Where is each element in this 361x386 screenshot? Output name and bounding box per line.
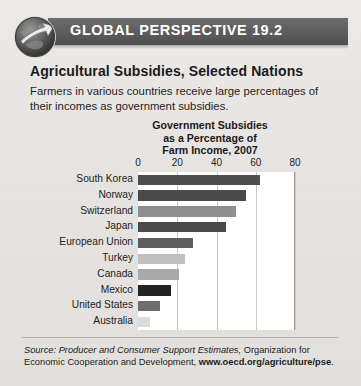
- bar-label-norway: Norway: [0, 189, 133, 200]
- intro-paragraph: Farmers in various countries receive lar…: [30, 84, 338, 113]
- bar-switzerland: [138, 206, 236, 217]
- bar-european-union: [138, 238, 193, 249]
- chart-bars: South KoreaNorwaySwitzerlandJapanEuropea…: [0, 172, 361, 330]
- bar-canada: [138, 269, 179, 280]
- bar-label-south-korea: South Korea: [0, 173, 133, 184]
- banner-title: GLOBAL PERSPECTIVE 19.2: [70, 22, 283, 38]
- bar-label-switzerland: Switzerland: [0, 205, 133, 216]
- chart-title-line-2: Farm Income, 2007: [120, 144, 300, 157]
- chart-row: Mexico: [0, 283, 361, 299]
- bar-label-canada: Canada: [0, 268, 133, 279]
- chart-row: Canada: [0, 267, 361, 283]
- chart-title: Government Subsidiesas a Percentage ofFa…: [120, 119, 300, 157]
- bar-norway: [138, 190, 246, 201]
- divider: [22, 337, 338, 338]
- chart-row: Australia: [0, 314, 361, 330]
- x-axis-tick-labels: 020406080: [0, 157, 361, 171]
- bar-label-european-union: European Union: [0, 236, 133, 247]
- chart-title-line-1: as a Percentage of: [120, 132, 300, 145]
- chart-row: Turkey: [0, 251, 361, 267]
- bar-united-states: [138, 301, 160, 312]
- chart-row: Japan: [0, 219, 361, 235]
- chart-row: South Korea: [0, 172, 361, 188]
- chart-row: United States: [0, 298, 361, 314]
- x-tick-80: 80: [289, 157, 300, 168]
- chart-row: Switzerland: [0, 204, 361, 220]
- bar-label-australia: Australia: [0, 315, 133, 326]
- banner-shadow: [50, 45, 348, 49]
- x-tick-20: 20: [172, 157, 183, 168]
- bar-japan: [138, 222, 226, 233]
- bar-label-united-states: United States: [0, 299, 133, 310]
- chart-row: European Union: [0, 235, 361, 251]
- bar-label-turkey: Turkey: [0, 252, 133, 263]
- page-title: Agricultural Subsidies, Selected Nations: [30, 63, 350, 79]
- bar-australia: [138, 317, 150, 328]
- bar-label-japan: Japan: [0, 220, 133, 231]
- x-tick-0: 0: [135, 157, 141, 168]
- source-label: Source:: [24, 345, 56, 355]
- source-note: Source: Producer and Consumer Support Es…: [24, 344, 342, 368]
- bar-south-korea: [138, 175, 260, 186]
- bar-label-mexico: Mexico: [0, 284, 133, 295]
- bar-turkey: [138, 254, 185, 265]
- chart-row: Norway: [0, 188, 361, 204]
- chart-title-line-0: Government Subsidies: [120, 119, 300, 132]
- source-period: .: [331, 357, 334, 367]
- globe-arrow-icon: [12, 14, 58, 60]
- source-url[interactable]: www.oecd.org/agriculture/pse: [199, 357, 331, 367]
- x-tick-60: 60: [250, 157, 261, 168]
- source-italic: Producer and Consumer Support Estimates,: [59, 345, 241, 355]
- x-tick-40: 40: [211, 157, 222, 168]
- bar-mexico: [138, 285, 171, 296]
